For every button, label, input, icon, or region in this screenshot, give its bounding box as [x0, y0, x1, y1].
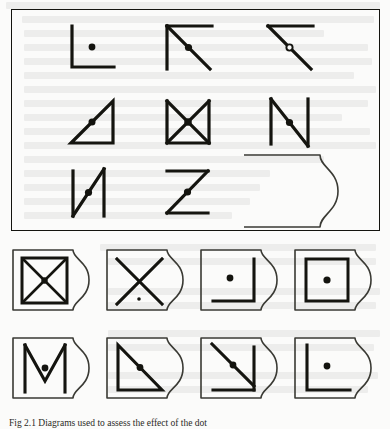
filled-dot-marker: [185, 44, 192, 51]
stimulus-letter-z: [164, 168, 216, 220]
filled-dot-marker: [227, 275, 234, 282]
filled-dot-marker: [89, 44, 96, 51]
small-dot-marker: [137, 297, 141, 301]
filled-dot-marker: [286, 119, 293, 126]
stimulus-top-line-with-diagonal: [265, 23, 323, 75]
response-card-grid: [11, 247, 383, 412]
stimulus-right-triangle: [68, 98, 122, 150]
card-square-outline[interactable]: [293, 247, 381, 319]
stimulus-blank-response-card: [242, 153, 352, 231]
filled-dot-marker: [137, 364, 144, 371]
stimulus-letter-n-narrow: [70, 166, 118, 222]
filled-dot-marker: [85, 189, 92, 196]
filled-dot-marker: [42, 365, 49, 372]
card-corner-left-down[interactable]: [293, 335, 381, 407]
filled-dot-marker: [89, 119, 96, 126]
filled-dot-marker: [184, 118, 192, 126]
stimulus-panel: [11, 9, 380, 231]
filled-dot-marker: [184, 188, 191, 195]
card-mirrored-corner[interactable]: [199, 247, 287, 319]
figure-container: Fig 2.1 Diagrams used to assess the effe…: [0, 0, 390, 429]
card-letter-m[interactable]: [11, 335, 99, 407]
filled-dot-marker: [41, 277, 47, 283]
stimulus-bowtie-triangles: [164, 98, 218, 150]
filled-dot-marker: [230, 362, 237, 369]
stimulus-letter-n: [268, 96, 320, 152]
stimulus-corner-top-left-with-diagonal: [164, 23, 222, 75]
card-right-triangle-mirrored[interactable]: [105, 335, 193, 407]
open-circle-marker: [286, 44, 292, 50]
filled-dot-marker: [323, 276, 330, 283]
card-square-with-x[interactable]: [11, 247, 99, 319]
stimulus-corner-left-down-with-dot: [68, 23, 118, 73]
card-arrow-corner-diagonal[interactable]: [199, 335, 287, 407]
card-x-cross[interactable]: [105, 247, 193, 319]
filled-dot-marker: [324, 363, 331, 370]
figure-caption: Fig 2.1 Diagrams used to assess the effe…: [9, 418, 339, 429]
